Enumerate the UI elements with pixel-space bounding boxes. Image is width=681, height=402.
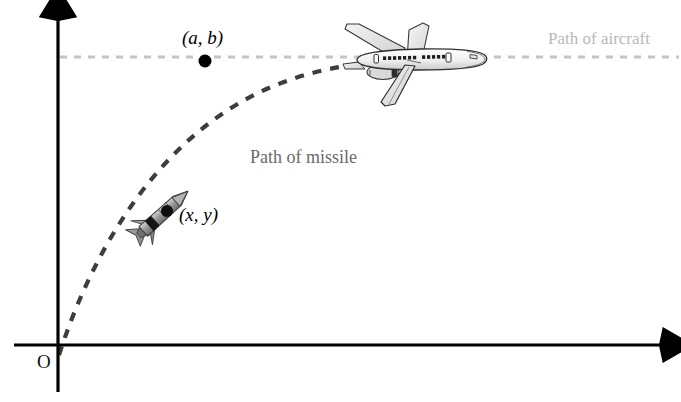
- missile-path-curve: [59, 60, 404, 355]
- aircraft-point-marker: [199, 55, 212, 68]
- missile-point-marker: [161, 205, 173, 217]
- missile-aircraft-diagram: (a, b) (x, y) O Path of aircraft Path of…: [0, 0, 681, 402]
- diagram-canvas: [0, 0, 681, 402]
- origin-label: O: [37, 352, 51, 371]
- aircraft-point-label: (a, b): [182, 28, 223, 47]
- missile-path-label: Path of missile: [250, 148, 357, 166]
- aircraft-illustration: [343, 23, 487, 106]
- aircraft-path-label: Path of aircraft: [548, 30, 650, 47]
- missile-point-label: (x, y): [179, 205, 218, 224]
